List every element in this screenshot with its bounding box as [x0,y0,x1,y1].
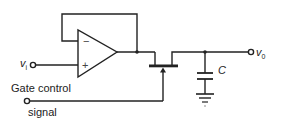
output-label: v0 [256,46,265,60]
ground-icon [196,94,214,106]
input-terminal [30,62,35,67]
gate-signal-label: signal [28,106,57,118]
opamp-minus-sign: − [83,35,89,47]
capacitor-label: C [218,64,226,76]
opamp-plus-sign: + [82,59,88,71]
jfet-gate-arrow-icon [160,68,166,73]
gate-control-label: Gate control [11,82,71,94]
jfet-drain-lead [172,52,251,65]
output-terminal [248,49,253,54]
output-junction-dot [135,50,139,54]
input-label: vi [20,57,27,71]
jfet-channel [149,65,178,68]
gate-terminal [24,98,29,103]
